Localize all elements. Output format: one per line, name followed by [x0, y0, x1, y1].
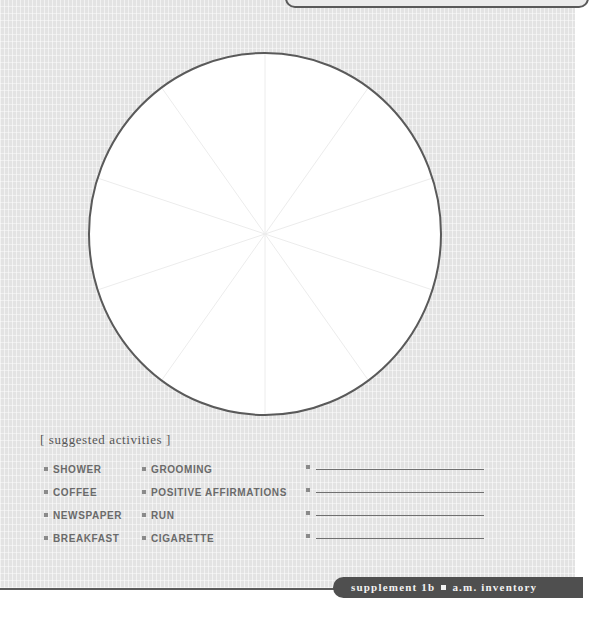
activity-item: CIGARETTE	[142, 533, 214, 544]
activity-item: SHOWER	[44, 464, 102, 475]
activity-item: POSITIVE AFFIRMATIONS	[142, 487, 287, 498]
bullet-icon	[306, 511, 310, 515]
bullet-icon	[306, 465, 310, 469]
blank-activity-line[interactable]	[306, 486, 484, 496]
bullet-icon	[142, 467, 146, 471]
bullet-icon	[306, 534, 310, 538]
separator-square-icon	[441, 585, 446, 590]
bullet-icon	[142, 513, 146, 517]
blank-activity-line[interactable]	[306, 509, 484, 519]
bullet-icon	[44, 536, 48, 540]
blank-activity-line[interactable]	[306, 532, 484, 542]
activity-item: BREAKFAST	[44, 533, 120, 544]
footer-label: supplement 1ba.m. inventory	[333, 577, 583, 598]
bullet-icon	[44, 490, 48, 494]
suggested-activities-title: [ suggested activities ]	[40, 432, 171, 448]
bullet-icon	[142, 536, 146, 540]
activity-item: NEWSPAPER	[44, 510, 122, 521]
bullet-icon	[44, 467, 48, 471]
activity-item: COFFEE	[44, 487, 97, 498]
header-tab	[285, 0, 589, 8]
bullet-icon	[142, 490, 146, 494]
activity-item: GROOMING	[142, 464, 212, 475]
bullet-icon	[44, 513, 48, 517]
bullet-icon	[306, 488, 310, 492]
blank-activity-line[interactable]	[306, 463, 484, 473]
worksheet-page: [ suggested activities ] SHOWER COFFEE N…	[0, 0, 575, 590]
clock-diagram	[86, 50, 444, 420]
activity-item: RUN	[142, 510, 174, 521]
